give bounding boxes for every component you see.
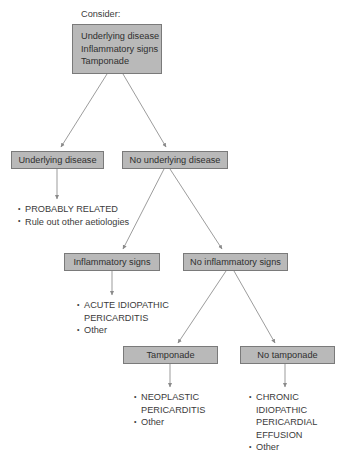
- outcome-item: Other: [249, 441, 317, 454]
- outcome-item: ACUTE IDIOPATHIC: [77, 299, 169, 312]
- outcome-item: PROBABLY RELATED: [18, 203, 129, 216]
- connector-no-inflammatory-to-no-tamponade: [234, 271, 275, 343]
- connector-no-inflammatory-to-tamponade: [178, 271, 226, 343]
- outcome-list-inflammatory-signs: ACUTE IDIOPATHIC PERICARDITIS Other: [77, 299, 169, 337]
- connector-root-to-underlying-disease: [61, 74, 107, 147]
- outcome-item: Other: [77, 324, 169, 337]
- outcome-list-tamponade: NEOPLASTIC PERICARDITIS Other: [134, 391, 205, 429]
- outcome-item-continuation: PERICARDITIS: [134, 404, 205, 417]
- node-label: No underlying disease: [130, 154, 221, 166]
- root-line-underlying-disease: Underlying disease: [81, 30, 159, 42]
- outcome-list-no-tamponade: CHRONIC IDIOPATHIC PERICARDIAL EFFUSION …: [249, 391, 317, 454]
- root-line-inflammatory-signs: Inflammatory signs: [81, 43, 158, 55]
- outcome-list-underlying-disease: PROBABLY RELATED Rule out other aetiolog…: [18, 203, 129, 228]
- node-no-inflammatory-signs[interactable]: No inflammatory signs: [183, 253, 288, 271]
- node-no-underlying-disease[interactable]: No underlying disease: [122, 151, 228, 169]
- root-line-tamponade: Tamponade: [81, 55, 129, 67]
- node-underlying-disease[interactable]: Underlying disease: [11, 151, 104, 169]
- connector-layer: [0, 0, 340, 457]
- outcome-item-continuation: EFFUSION: [249, 429, 317, 442]
- node-no-tamponade[interactable]: No tamponade: [240, 346, 335, 364]
- flowchart-diagram: Consider: Underlying disease Inflammator…: [0, 0, 340, 457]
- outcome-item-continuation: IDIOPATHIC: [249, 404, 317, 417]
- node-label: Underlying disease: [18, 154, 96, 166]
- node-tamponade[interactable]: Tamponade: [123, 346, 218, 364]
- connector-root-to-no-underlying-disease: [123, 74, 166, 147]
- consider-caption: Consider:: [81, 8, 120, 20]
- outcome-item: NEOPLASTIC: [134, 391, 205, 404]
- node-inflammatory-signs[interactable]: Inflammatory signs: [64, 253, 160, 271]
- node-label: No inflammatory signs: [190, 256, 281, 268]
- outcome-item-continuation: PERICARDITIS: [77, 312, 169, 325]
- node-label: No tamponade: [257, 349, 317, 361]
- node-label: Inflammatory signs: [73, 256, 150, 268]
- node-label: Tamponade: [146, 349, 194, 361]
- outcome-item: Rule out other aetiologies: [18, 216, 129, 229]
- outcome-item-continuation: PERICARDIAL: [249, 416, 317, 429]
- connector-no-underlying-to-no-inflammatory: [170, 169, 222, 249]
- outcome-item: CHRONIC: [249, 391, 317, 404]
- node-consider-root[interactable]: Underlying disease Inflammatory signs Ta…: [72, 24, 162, 74]
- outcome-item: Other: [134, 416, 205, 429]
